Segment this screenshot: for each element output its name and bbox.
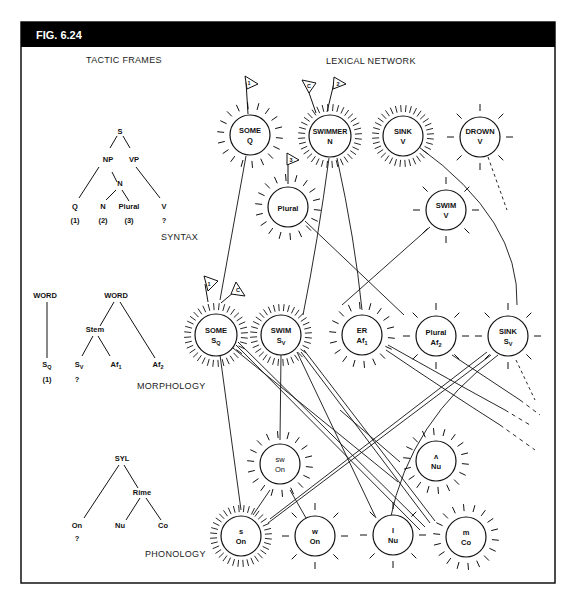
syntax-slot-plural: (3) <box>124 216 134 225</box>
node-plural-line1: Plural <box>278 204 299 213</box>
morph-tree2-slot: ? <box>75 375 80 384</box>
node-circle <box>230 115 270 155</box>
node-circle <box>342 315 382 355</box>
syntax-node-vp: VP <box>129 155 139 164</box>
node-swim-v-line1: SWIM <box>436 201 456 210</box>
syntax-node-q: Q <box>72 202 78 211</box>
node-circle <box>373 515 413 555</box>
node-some-sq-line1: SOME <box>205 326 227 335</box>
phon-node-co: Co <box>158 521 168 530</box>
node-circle <box>383 116 423 156</box>
node-w-on-line1: w <box>311 527 318 536</box>
morph-tree1-root: WORD <box>33 291 57 300</box>
syntax-slot-n: (2) <box>98 216 108 225</box>
node-caret-nu-line2: Nu <box>431 462 441 471</box>
syntax-node-n-mid: N <box>117 179 122 188</box>
node-circle <box>416 441 456 481</box>
node-sw-on-line2: On <box>275 465 285 474</box>
node-drown-line2: V <box>477 137 482 146</box>
node-swimmer-line1: SWIMMER <box>313 128 348 135</box>
node-i-nu-line2: Nu <box>388 536 398 545</box>
node-some-q-line1: SOME <box>239 126 261 135</box>
node-circle <box>295 516 335 556</box>
node-circle <box>260 444 300 484</box>
node-swim-sv-line1: SWIM <box>271 326 291 335</box>
node-drown-line1: DROWN <box>465 127 494 136</box>
morph-tree1-slot: (1) <box>42 375 52 384</box>
lexical-network-heading: LEXICAL NETWORK <box>326 56 416 66</box>
flag-label-some-sq-1: 1 <box>207 281 210 287</box>
node-some-q-line2: Q <box>247 136 253 145</box>
flag-label-plural: 3 <box>289 157 292 163</box>
node-swimmer-line2: N <box>327 137 332 146</box>
phon-node-syl: SYL <box>115 454 130 463</box>
syntax-slot-q: (1) <box>70 216 80 225</box>
node-circle <box>195 314 237 356</box>
node-er-af1-line1: ER <box>357 326 368 335</box>
node-s-on-line2: On <box>236 537 247 546</box>
node-circle <box>488 316 528 356</box>
phon-slot-on: ? <box>75 534 80 543</box>
phon-node-nu: Nu <box>115 521 125 530</box>
node-sink-v-line2: V <box>400 137 405 146</box>
syntax-label: SYNTAX <box>161 232 198 242</box>
node-circle <box>446 517 486 557</box>
figure-label: FIG. 6.24 <box>36 29 83 41</box>
node-i-nu-line1: I <box>392 526 394 535</box>
morph-tree2-stem: Stem <box>86 325 105 334</box>
flag-label-some-q: 1 <box>247 80 250 86</box>
node-m-co-line1: m <box>463 528 470 537</box>
morph-tree2-root: WORD <box>104 291 128 300</box>
phon-node-rime: Rime <box>133 488 151 497</box>
node-swim-v-line2: V <box>443 211 448 220</box>
node-sink-v-line1: SINK <box>394 127 413 136</box>
node-sink-sv-line1: SINK <box>499 327 518 336</box>
syntax-node-n: N <box>100 202 105 211</box>
node-plural-af2-line1: Plural <box>426 328 447 337</box>
node-circle <box>221 516 261 556</box>
node-circle <box>426 190 466 230</box>
node-m-co-line2: Co <box>461 538 471 547</box>
flag-label-some-sq-c: C <box>236 287 240 293</box>
syntax-node-s: S <box>117 127 122 136</box>
node-circle <box>261 315 301 355</box>
syntax-node-v: V <box>161 202 166 211</box>
syntax-node-np: NP <box>103 155 113 164</box>
node-s-on-line1: s <box>239 527 243 536</box>
node-w-on-line2: On <box>310 537 321 546</box>
node-circle <box>309 115 351 157</box>
flag-label-swimmer-c: C <box>307 83 311 89</box>
figure-canvas: FIG. 6.24 TACTIC FRAMES LEXICAL NETWORK … <box>0 0 575 601</box>
figure-header-bar <box>21 22 555 47</box>
figure-frame <box>21 22 555 583</box>
node-sw-on-line1: sw <box>275 455 285 464</box>
syntax-slot-v: ? <box>162 216 167 225</box>
syntax-node-plural: Plural <box>119 202 140 211</box>
morphology-label: MORPHOLOGY <box>137 381 206 391</box>
tactic-frames-heading: TACTIC FRAMES <box>86 55 162 65</box>
phonology-label: PHONOLOGY <box>145 549 206 559</box>
flag-label-swimmer-2: 2 <box>336 81 339 87</box>
phon-node-on: On <box>72 521 83 530</box>
